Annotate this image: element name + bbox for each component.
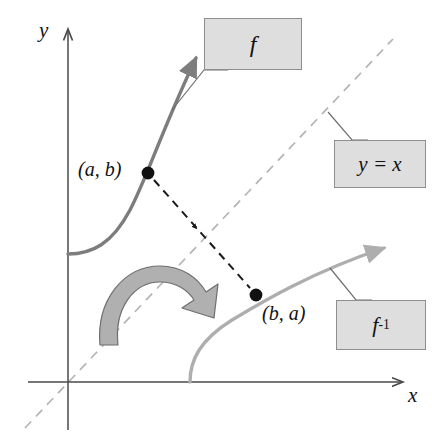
callout-box-identity: y = x [334, 140, 426, 188]
callout-box-f: f [204, 18, 302, 70]
point-ab [142, 167, 155, 180]
callout-label-f-inverse-exponent: -1 [378, 317, 389, 333]
callout-leader-yx [328, 112, 368, 140]
callout-leader-finv [330, 268, 372, 300]
callout-label-f: f [250, 31, 257, 58]
function-inverse-diagram: y x (a, b) (b, a) f y = x f-1 [0, 0, 432, 443]
reflection-rotation-arrow [100, 266, 218, 345]
callout-label-identity: y = x [358, 152, 401, 177]
x-axis-label: x [408, 385, 417, 406]
point-label-ba: (b, a) [262, 303, 305, 323]
y-axis-label: y [39, 20, 48, 41]
identity-line [25, 39, 393, 428]
point-ba [250, 289, 263, 302]
callout-box-f-inverse: f-1 [336, 300, 426, 350]
curve-f [68, 58, 196, 254]
point-label-ab: (a, b) [78, 159, 121, 179]
